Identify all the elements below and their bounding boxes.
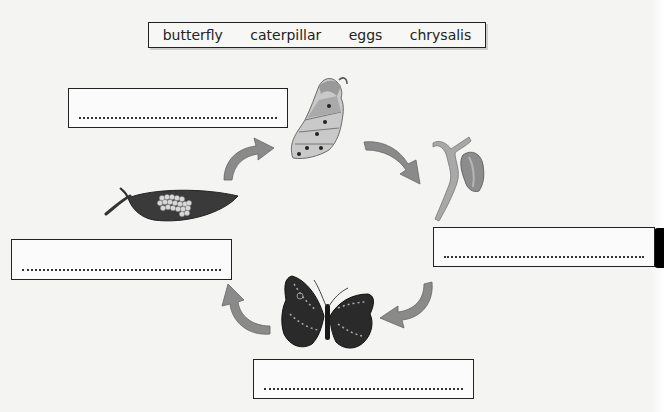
arrow-chrysalis-to-butterfly-icon bbox=[376, 278, 438, 334]
page-edge-shadow bbox=[650, 0, 664, 412]
word-bank-eggs: eggs bbox=[345, 27, 387, 43]
arrow-butterfly-to-eggs-icon bbox=[218, 282, 272, 338]
answer-box-caterpillar[interactable] bbox=[68, 88, 288, 128]
answer-box-chrysalis[interactable] bbox=[433, 227, 655, 267]
word-bank-caterpillar: caterpillar bbox=[246, 27, 325, 43]
answer-input-eggs[interactable] bbox=[20, 244, 223, 269]
dotted-line bbox=[444, 256, 644, 258]
chrysalis-illustration bbox=[425, 135, 495, 225]
caterpillar-illustration bbox=[285, 72, 355, 164]
page-edge-tab bbox=[654, 228, 664, 268]
word-bank-chrysalis: chrysalis bbox=[406, 27, 476, 43]
answer-box-eggs[interactable] bbox=[11, 239, 232, 280]
worksheet-page: butterfly caterpillar eggs chrysalis bbox=[0, 0, 664, 412]
answer-input-butterfly[interactable] bbox=[262, 364, 465, 388]
eggs-on-leaf-illustration bbox=[104, 186, 240, 226]
dotted-line bbox=[264, 388, 463, 390]
word-bank-butterfly: butterfly bbox=[159, 27, 227, 43]
dotted-line bbox=[22, 269, 221, 271]
answer-input-chrysalis[interactable] bbox=[442, 232, 646, 256]
butterfly-illustration bbox=[278, 274, 380, 352]
arrow-caterpillar-to-chrysalis-icon bbox=[360, 138, 422, 186]
answer-input-caterpillar[interactable] bbox=[77, 93, 279, 117]
arrow-eggs-to-caterpillar-icon bbox=[218, 132, 278, 184]
answer-box-butterfly[interactable] bbox=[253, 359, 474, 399]
dotted-line bbox=[79, 117, 277, 119]
word-bank: butterfly caterpillar eggs chrysalis bbox=[148, 22, 486, 48]
